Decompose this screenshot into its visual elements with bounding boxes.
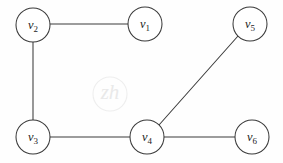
vertex-v4[interactable]: v4 [130, 120, 164, 154]
watermark-label: zh [100, 80, 120, 104]
vertex-v6[interactable]: v6 [235, 120, 269, 154]
graph-figure: zh v1 v2 v3 v4 [0, 0, 283, 163]
vertex-v1[interactable]: v1 [128, 7, 162, 41]
vertex-layer: v1 v2 v3 v4 v5 v6 [16, 7, 269, 154]
graph-canvas: zh v1 v2 v3 v4 [0, 0, 283, 163]
vertex-v5[interactable]: v5 [233, 7, 267, 41]
vertex-v2[interactable]: v2 [16, 8, 50, 42]
edge-v4-v5 [159, 36, 238, 125]
watermark: zh [93, 77, 127, 111]
vertex-v3[interactable]: v3 [16, 120, 50, 154]
edge-layer [33, 24, 238, 137]
